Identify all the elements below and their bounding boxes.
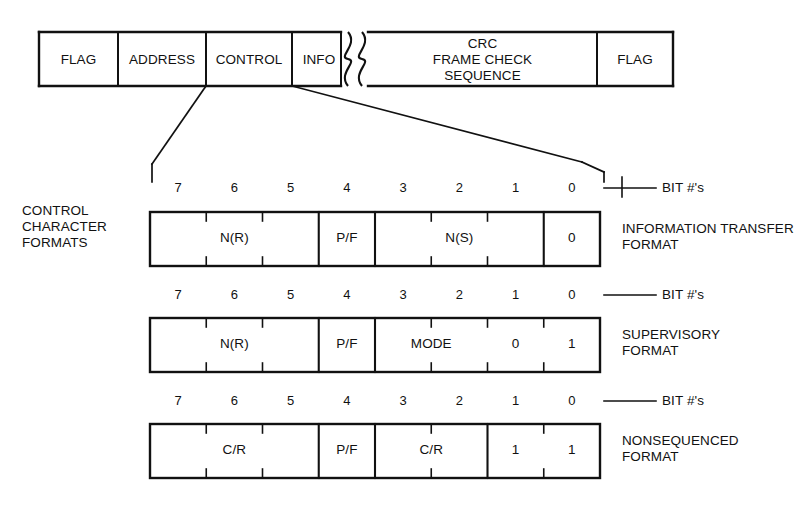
bit-number-supervisory-7: 7 bbox=[166, 287, 190, 302]
bit-number-supervisory-2: 2 bbox=[447, 287, 471, 302]
bracket-left-diagonal bbox=[152, 86, 206, 164]
bit-number-supervisory-3: 3 bbox=[391, 287, 415, 302]
bit-number-information-transfer-5: 5 bbox=[279, 180, 303, 195]
format-cell-supervisory-MODE-2: MODE bbox=[375, 336, 488, 352]
bit-number-information-transfer-4: 4 bbox=[335, 180, 359, 195]
format-cell-information-transfer-NR-0: N(R) bbox=[150, 230, 319, 246]
control-character-formats-title: CONTROLCHARACTERFORMATS bbox=[22, 203, 142, 251]
frame-field-info-3: INFO bbox=[292, 52, 346, 68]
format-cell-information-transfer-PF-1: P/F bbox=[319, 230, 375, 246]
control-expansion-bracket bbox=[152, 86, 604, 182]
bit-number-supervisory-0: 0 bbox=[560, 287, 584, 302]
bit-number-nonsequenced-4: 4 bbox=[335, 393, 359, 408]
format-cell-information-transfer-0-3: 0 bbox=[544, 230, 600, 246]
frame-field-flag-5: FLAG bbox=[597, 52, 673, 68]
bit-number-nonsequenced-3: 3 bbox=[391, 393, 415, 408]
bit-number-nonsequenced-0: 0 bbox=[560, 393, 584, 408]
bit-number-nonsequenced-5: 5 bbox=[279, 393, 303, 408]
bit-number-information-transfer-1: 1 bbox=[504, 180, 528, 195]
bitnum-label-nonsequenced: BIT #'s bbox=[662, 393, 704, 409]
bitnum-label-information-transfer: BIT #'s bbox=[662, 180, 704, 196]
format-cell-nonsequenced-PF-1: P/F bbox=[319, 442, 375, 458]
format-cell-supervisory-1-4: 1 bbox=[544, 336, 600, 352]
bit-number-information-transfer-6: 6 bbox=[222, 180, 246, 195]
format-cell-supervisory-PF-1: P/F bbox=[319, 336, 375, 352]
bit-number-information-transfer-2: 2 bbox=[447, 180, 471, 195]
diagram-canvas: FLAGADDRESSCONTROLINFOCRCFRAME CHECKSEQU… bbox=[0, 0, 799, 519]
frame-field-control-2: CONTROL bbox=[206, 52, 292, 68]
format-cell-nonsequenced-1-4: 1 bbox=[544, 442, 600, 458]
format-cell-nonsequenced-CR-2: C/R bbox=[375, 442, 488, 458]
format-cell-information-transfer-NS-2: N(S) bbox=[375, 230, 544, 246]
format-name-information-transfer: INFORMATION TRANSFERFORMAT bbox=[622, 221, 799, 253]
bit-number-supervisory-4: 4 bbox=[335, 287, 359, 302]
frame-field-crc-4: CRCFRAME CHECKSEQUENCE bbox=[368, 36, 597, 84]
bit-number-information-transfer-0: 0 bbox=[560, 180, 584, 195]
bracket-right-elbow bbox=[582, 162, 604, 172]
bit-number-information-transfer-3: 3 bbox=[391, 180, 415, 195]
frame-field-address-1: ADDRESS bbox=[118, 52, 206, 68]
bit-number-supervisory-1: 1 bbox=[504, 287, 528, 302]
format-cell-supervisory-NR-0: N(R) bbox=[150, 336, 319, 352]
control-format-rows bbox=[150, 177, 656, 478]
format-cell-supervisory-0-3: 0 bbox=[488, 336, 544, 352]
bit-number-nonsequenced-2: 2 bbox=[447, 393, 471, 408]
bit-number-nonsequenced-7: 7 bbox=[166, 393, 190, 408]
bit-number-information-transfer-7: 7 bbox=[166, 180, 190, 195]
bit-number-nonsequenced-6: 6 bbox=[222, 393, 246, 408]
format-cell-nonsequenced-CR-0: C/R bbox=[150, 442, 319, 458]
bracket-right-diagonal bbox=[292, 86, 582, 162]
bit-number-supervisory-5: 5 bbox=[279, 287, 303, 302]
format-name-nonsequenced: NONSEQUENCEDFORMAT bbox=[622, 433, 799, 465]
frame-field-flag-0: FLAG bbox=[39, 52, 118, 68]
bit-number-supervisory-6: 6 bbox=[222, 287, 246, 302]
format-name-supervisory: SUPERVISORYFORMAT bbox=[622, 327, 799, 359]
frame-break-wave-right bbox=[359, 32, 365, 86]
format-cell-nonsequenced-1-3: 1 bbox=[488, 442, 544, 458]
bit-number-nonsequenced-1: 1 bbox=[504, 393, 528, 408]
bitnum-label-supervisory: BIT #'s bbox=[662, 287, 704, 303]
